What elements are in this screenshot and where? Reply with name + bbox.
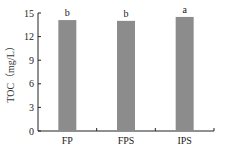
x-category-label: FPS bbox=[118, 135, 135, 146]
x-category-label: IPS bbox=[177, 135, 191, 146]
y-axis-label: TOC（mg/L） bbox=[5, 41, 16, 102]
y-tick-label: 0 bbox=[29, 126, 34, 137]
y-axis: 03691215 bbox=[24, 8, 41, 137]
y-tick-label: 3 bbox=[29, 102, 34, 113]
y-tick-label: 15 bbox=[24, 8, 34, 19]
y-tick-label: 12 bbox=[24, 31, 34, 42]
significance-letter: b bbox=[65, 7, 70, 18]
bar-fp bbox=[58, 20, 76, 131]
significance-letter: a bbox=[182, 4, 187, 15]
bar-ips bbox=[176, 17, 194, 131]
x-category-label: FP bbox=[62, 135, 74, 146]
bars: FPbFPSbIPSa bbox=[58, 4, 193, 146]
y-tick-label: 6 bbox=[29, 78, 34, 89]
significance-letter: b bbox=[124, 8, 129, 19]
y-tick-label: 9 bbox=[29, 55, 34, 66]
bar-fps bbox=[117, 21, 135, 131]
toc-bar-chart: 03691215 FPbFPSbIPSa TOC（mg/L） bbox=[0, 0, 225, 157]
